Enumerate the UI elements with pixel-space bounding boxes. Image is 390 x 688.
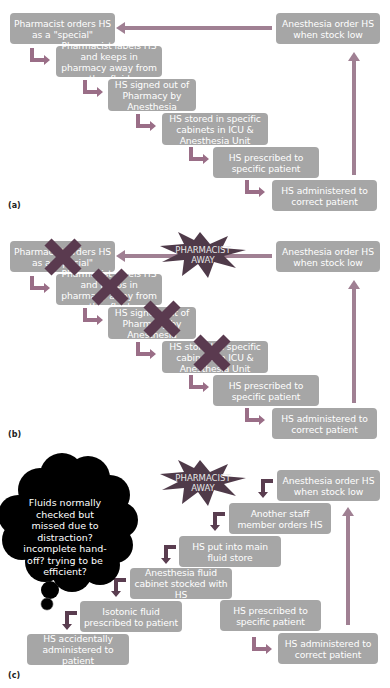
b-signed-out-box: HS signed out of Pharmacy by Anesthesia (108, 307, 196, 339)
b-administered-box: HS administered to correct patient (272, 408, 377, 439)
c-anesthesia-order-box: Anesthesia order HS when stock low (277, 470, 380, 501)
c-another-staff-box: Another staff member orders HS (229, 503, 331, 534)
a-stored-cabinets-box: HS stored in specific cabinets in ICU & … (162, 113, 268, 145)
a-administered-box: HS administered to correct patient (272, 180, 377, 211)
panel-label-c: (c) (8, 671, 20, 680)
b-anesthesia-order-box: Anesthesia order HS when stock low (276, 241, 380, 272)
c-prescribed-box: HS prescribed to specific patient (220, 600, 321, 631)
c-isotonic-box: Isotonic fluid prescribed to patient (80, 601, 182, 632)
a-prescribed-box: HS prescribed to specific patient (213, 147, 319, 178)
c-accident-box: HS accidentally administered to patient (27, 634, 129, 665)
panel-label-b: (b) (8, 430, 21, 439)
b-pharmacist-labels-box: Pharmacist labels HS and keeps in pharma… (56, 274, 162, 305)
c-main-store-box: HS put into main fluid store (179, 536, 281, 567)
c-cloud-text: Fluids normally checked but missed due t… (19, 497, 111, 578)
a-pharmacist-labels-box: Pharmacist labels HS and keeps in pharma… (56, 46, 162, 77)
a-signed-out-box: HS signed out of Pharmacy by Anesthesia (108, 79, 196, 111)
b-prescribed-box: HS prescribed to specific patient (213, 375, 319, 406)
b-star-text: PHARMACIST AWAY (163, 245, 243, 265)
panel-label-a: (a) (8, 201, 21, 210)
c-administered-box: HS administered to correct patient (278, 633, 378, 664)
c-star-text: PHARMACIST AWAY (163, 473, 243, 493)
b-stored-cabinets-box: HS stored in specific cabinets in ICU & … (162, 341, 268, 373)
c-cabinet-box: Anesthesia fluid cabinet stocked with HS (130, 568, 232, 599)
a-anesthesia-order-box: Anesthesia order HS when stock low (276, 13, 380, 44)
